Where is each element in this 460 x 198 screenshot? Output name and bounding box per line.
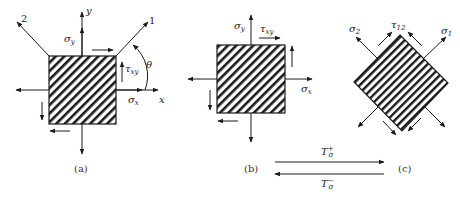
caption-a: (a) [74, 164, 88, 174]
sigma-2-label: σ2 [349, 24, 360, 36]
sigma-2-lower-arrow [425, 107, 445, 127]
tau-xy-label-b: τxy [260, 24, 273, 36]
panel-c [354, 32, 448, 135]
sigma-1-lower-arrow [358, 107, 378, 127]
tau-12-top-right-arrow [408, 32, 422, 46]
sigma-2-arrow [356, 37, 377, 58]
transform-arrows [275, 162, 384, 174]
axis-2-label: 2 [21, 14, 27, 24]
sigma-1-label: σ1 [441, 26, 452, 38]
y-axis-label: y [86, 6, 92, 16]
axis-1 [116, 22, 148, 56]
stress-transformation-figure: y x 1 2 σy σx τxy θ (a) σy τxy σx (b) T+… [0, 0, 460, 198]
tau-12-top-left-arrow [378, 32, 392, 46]
caption-b: (b) [244, 164, 258, 174]
sigma-1-arrow [424, 37, 446, 58]
axis-2 [17, 22, 49, 56]
inverse-transform-label: T−σ [321, 178, 333, 191]
panel-a [16, 12, 158, 154]
sigma-y-label-a: σy [64, 34, 75, 46]
axis-1-label: 1 [149, 16, 155, 26]
caption-c: (c) [398, 164, 411, 174]
panel-b [188, 15, 312, 142]
x-axis-label: x [159, 95, 165, 105]
forward-transform-label: T+σ [321, 146, 333, 159]
tau-12-label: τ12 [391, 20, 405, 32]
tau-xy-label-a: τxy [125, 64, 138, 76]
sigma-x-label-b: σx [301, 84, 312, 96]
element-square-a [49, 56, 116, 124]
theta-label: θ [146, 60, 152, 70]
sigma-x-label-a: σx [128, 95, 139, 107]
element-square-b [217, 45, 285, 113]
sigma-y-label-b: σy [234, 21, 245, 33]
